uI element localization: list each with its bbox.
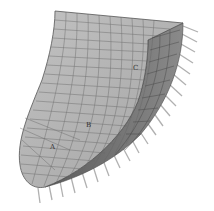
label-a: A: [49, 143, 56, 151]
label-c: C: [133, 64, 138, 72]
label-b: B: [86, 121, 91, 129]
shell-mesh-diagram: A B C: [0, 0, 214, 211]
